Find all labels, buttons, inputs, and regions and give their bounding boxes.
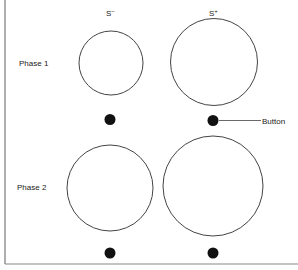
row-label-phase-2: Phase 2 [17,183,47,192]
column-header-s-minus: S− [106,8,115,18]
row-label-phase-1: Phase 1 [19,59,49,68]
discrimination-panel-diagram: S− S+ Phase 1 Phase 2 Button [0,0,298,270]
phase1-s-minus-stimulus [79,31,143,95]
phase2-s-minus-button[interactable] [105,248,116,259]
phase1-s-minus-button[interactable] [105,114,116,125]
button-callout-label: Button [262,117,285,126]
phase1-s-plus-button[interactable] [208,115,219,126]
phase2-s-plus-button[interactable] [208,248,219,259]
column-header-s-plus: S+ [209,8,218,18]
phase2-s-minus-stimulus [67,145,153,231]
phase2-s-plus-stimulus [163,136,263,236]
phase1-s-plus-stimulus [171,19,258,106]
